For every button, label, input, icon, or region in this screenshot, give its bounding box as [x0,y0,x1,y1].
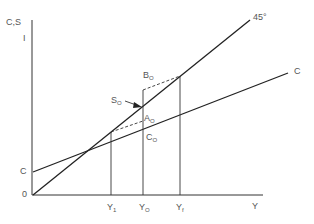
forty-five-label: 45° [253,13,267,22]
y0-tick-label: YO [139,203,150,213]
point-bo-label: BO [143,71,154,81]
origin-label: 0 [22,190,27,199]
yf-tick-label: Yf [176,203,184,213]
ao-dashed-line [111,121,143,132]
point-ao-label: AO [144,114,155,124]
consumption-intercept-label: C [20,167,27,176]
y-axis-label-investment: I [23,34,26,43]
x-axis-label: Y [252,202,258,211]
consumption-line-label: C [294,67,301,76]
consumption-line [33,73,288,172]
diagram-canvas [0,0,314,224]
forty-five-degree-line [33,20,250,195]
y-axis-label: C,S [6,18,21,27]
so-arrow-head-icon [133,102,142,108]
y1-tick-label: Y1 [107,203,116,213]
point-co-label: CO [146,133,157,143]
point-so-label: SO [111,96,122,106]
